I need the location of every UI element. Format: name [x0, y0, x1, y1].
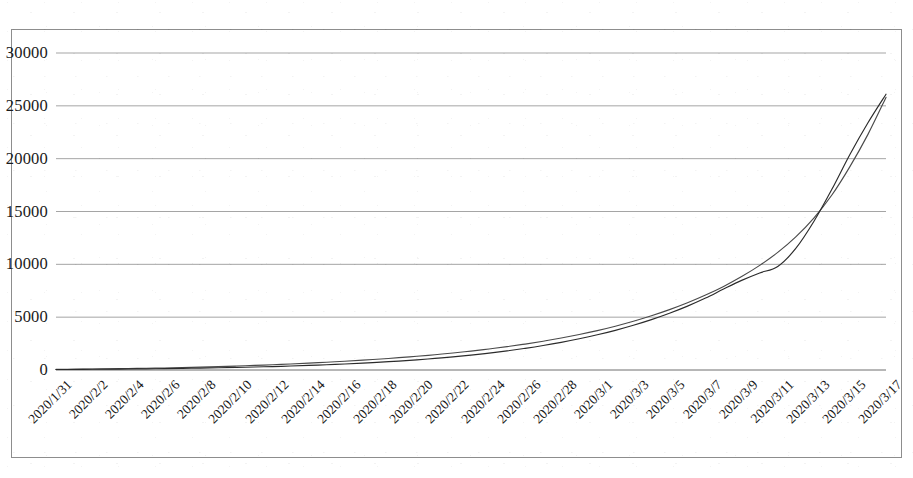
y-axis-tick-label: 20000 [0, 149, 48, 169]
y-axis-tick-label: 30000 [0, 43, 48, 63]
y-axis-tick-label: 15000 [0, 202, 48, 222]
chart-container: 050001000015000200002500030000 2020/1/31… [0, 0, 913, 478]
y-axis-tick-label: 0 [0, 360, 48, 380]
y-axis-tick-label: 10000 [0, 254, 48, 274]
y-axis-tick-label: 25000 [0, 96, 48, 116]
y-axis-tick-label: 5000 [0, 307, 48, 327]
